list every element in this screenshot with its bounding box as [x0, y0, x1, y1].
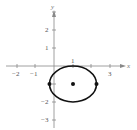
x-tick-label: 1	[71, 57, 75, 65]
vertex-point-right	[95, 82, 99, 86]
ellipse-graph: x y −2 −1 1 3 2 1 −2 −3	[0, 0, 137, 130]
x-tick-label: −2	[12, 70, 20, 78]
vertex-point-left	[48, 82, 52, 86]
y-tick-label: 2	[45, 26, 49, 34]
x-axis-label: x	[126, 62, 131, 70]
center-point	[71, 82, 75, 86]
y-tick-label: 1	[45, 44, 49, 52]
y-axis-arrow-icon	[52, 10, 56, 17]
x-tick-label: −1	[30, 70, 38, 78]
x-tick-label: 3	[108, 70, 112, 78]
y-tick-label: −2	[41, 98, 49, 106]
y-axis-label: y	[50, 3, 55, 11]
y-tick-label: −3	[41, 116, 49, 124]
x-axis-arrow-icon	[120, 64, 126, 68]
